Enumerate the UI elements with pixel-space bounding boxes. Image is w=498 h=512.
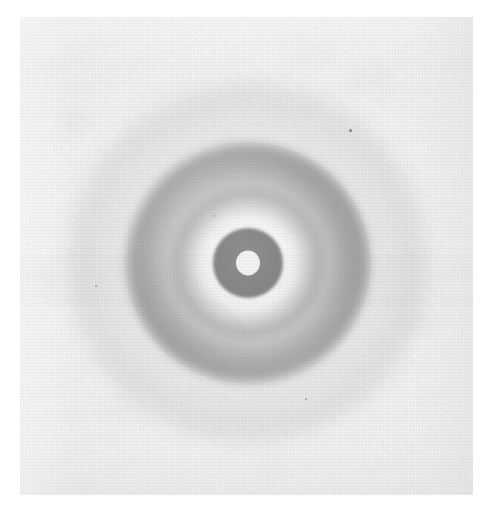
dust-speck-icon bbox=[349, 129, 352, 132]
central-beam-spot bbox=[236, 251, 260, 276]
background-fog-halo bbox=[68, 83, 428, 443]
halftone-screen-texture bbox=[20, 17, 473, 495]
central-beam-spot-texture bbox=[238, 253, 259, 274]
outer-diffraction-arc bbox=[114, 134, 382, 392]
print-vignette bbox=[20, 17, 473, 495]
film-grain-texture bbox=[20, 17, 473, 495]
diffraction-pattern bbox=[20, 17, 473, 495]
inner-diffraction-ring bbox=[172, 188, 324, 338]
diffraction-photograph bbox=[20, 17, 473, 495]
print-edge-wash bbox=[20, 17, 473, 495]
paper-mottle-texture bbox=[20, 17, 473, 495]
beam-stop-disc bbox=[213, 228, 283, 298]
micro-speck-icon bbox=[95, 285, 97, 287]
micro-speck-icon bbox=[305, 398, 307, 400]
halo-gap-annulus bbox=[199, 214, 297, 312]
main-diffraction-ring bbox=[127, 144, 369, 382]
page-root: Monochrome photographic print of a powde… bbox=[0, 0, 498, 512]
main-ring-asymmetry bbox=[125, 142, 371, 384]
micro-speck-icon bbox=[213, 215, 215, 217]
